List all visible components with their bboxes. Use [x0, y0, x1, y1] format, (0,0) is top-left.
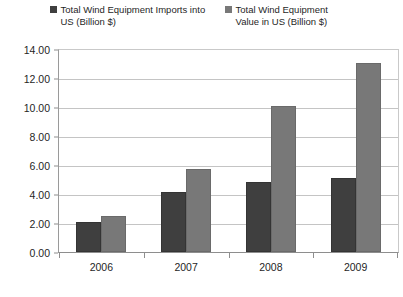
y-tick-label: 2.00: [30, 219, 50, 230]
x-tick-label-2009: 2009: [344, 261, 367, 273]
bar-chart: Total Wind Equipment Imports into US (Bi…: [0, 0, 403, 297]
bar-2009-series-0[interactable]: [331, 178, 356, 252]
bar-2006-series-1[interactable]: [101, 216, 126, 252]
legend-label-imports: Total Wind Equipment Imports into US (Bi…: [61, 4, 211, 27]
y-tick-label: 8.00: [30, 132, 50, 143]
y-tick-label: 0.00: [30, 248, 50, 259]
x-tick-label-2006: 2006: [90, 261, 113, 273]
bar-group: [59, 49, 144, 252]
y-tick-label: 10.00: [24, 103, 50, 114]
x-tick-mark: [59, 253, 60, 258]
x-tick-mark: [144, 253, 145, 258]
bar-group: [313, 49, 398, 252]
legend-item-imports[interactable]: Total Wind Equipment Imports into US (Bi…: [50, 4, 211, 27]
bar-2008-series-1[interactable]: [271, 106, 296, 252]
x-axis: 2006200720082009: [59, 253, 398, 279]
x-tick-mark: [229, 253, 230, 258]
bar-2009-series-1[interactable]: [356, 63, 381, 252]
y-axis: 0.002.004.006.008.0010.0012.0014.00: [0, 49, 54, 254]
bar-2007-series-0[interactable]: [161, 192, 186, 252]
bar-group: [144, 49, 229, 252]
bar-group: [229, 49, 314, 252]
x-tick-mark: [313, 253, 314, 258]
x-tick-label-2007: 2007: [174, 261, 197, 273]
legend-item-value[interactable]: Total Wind Equipment Value in US (Billio…: [225, 4, 354, 27]
y-tick-label: 6.00: [30, 161, 50, 172]
y-tick-label: 4.00: [30, 190, 50, 201]
x-tick-label-2008: 2008: [259, 261, 282, 273]
legend-swatch-icon-imports: [50, 6, 57, 13]
bar-2006-series-0[interactable]: [76, 222, 101, 252]
bars-layer: [59, 49, 398, 252]
bar-2008-series-0[interactable]: [246, 182, 271, 252]
bar-2007-series-1[interactable]: [186, 169, 211, 252]
legend-label-value: Total Wind Equipment Value in US (Billio…: [236, 4, 354, 27]
y-tick-label: 14.00: [24, 45, 50, 56]
y-tick-label: 12.00: [24, 74, 50, 85]
legend-swatch-icon-value: [225, 6, 232, 13]
chart-legend: Total Wind Equipment Imports into US (Bi…: [0, 4, 403, 27]
x-tick-mark: [397, 253, 398, 258]
